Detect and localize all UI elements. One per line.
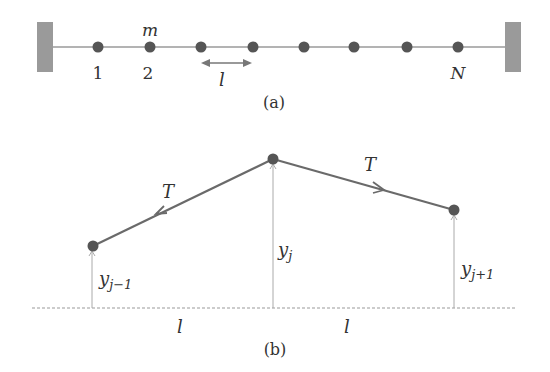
spacing-arrow-icon: [201, 59, 252, 67]
caption-b: (b): [264, 340, 287, 359]
left-wall: [37, 22, 53, 72]
figure-a: m 1 2 N l (a): [37, 20, 521, 112]
mass-4: [248, 42, 259, 53]
index-label-2: 2: [143, 63, 154, 83]
spacing-label-left: l: [177, 316, 183, 337]
right-wall: [505, 22, 521, 72]
mass-1: [93, 42, 104, 53]
tension-label-left: T: [162, 181, 176, 202]
mass-3: [196, 42, 207, 53]
figure-b: T T yj−1 yj yj+1 l l (b): [32, 154, 516, 360]
mass-j: [268, 154, 279, 165]
mass-label: m: [142, 20, 158, 40]
mass-N: [453, 42, 464, 53]
displacement-left: [89, 251, 95, 308]
string-segment-left: [93, 159, 273, 246]
spacing-label: l: [219, 69, 225, 90]
mass-5: [299, 42, 310, 53]
mass-2: [145, 42, 156, 53]
mass-j-plus-1: [449, 205, 460, 216]
mass-7: [402, 42, 413, 53]
tension-label-right: T: [364, 154, 378, 175]
caption-a: (a): [263, 93, 285, 112]
mass-j-minus-1: [88, 241, 99, 252]
displacement-right: [451, 215, 457, 308]
spacing-label-right: l: [344, 316, 350, 337]
displacement-mid: [270, 164, 276, 308]
index-label-1: 1: [93, 63, 104, 83]
mass-6: [349, 42, 360, 53]
index-label-N: N: [450, 63, 467, 83]
y-label-mid: yj: [277, 239, 292, 263]
diagram-canvas: m 1 2 N l (a): [0, 0, 550, 372]
y-label-right: yj+1: [460, 258, 494, 282]
y-label-left: yj−1: [98, 268, 132, 292]
